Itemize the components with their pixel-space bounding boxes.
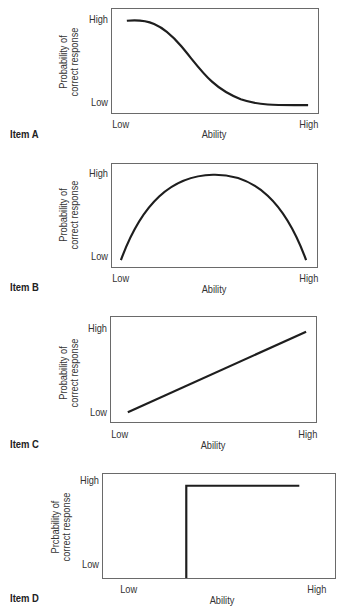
y-tick-low: Low <box>87 250 108 262</box>
y-tick-high: High <box>87 167 108 179</box>
x-tick-low: Low <box>111 428 128 440</box>
x-tick-high: High <box>299 272 318 284</box>
curve-inverted-u <box>112 164 317 267</box>
chart-item-d: Prcbability of correct response High Low… <box>0 455 345 613</box>
y-tick-high: High <box>78 474 99 486</box>
step-function <box>103 474 335 578</box>
x-axis-label: Ability <box>202 128 227 140</box>
item-label: Item B <box>10 281 39 293</box>
x-tick-high: High <box>299 118 318 130</box>
x-tick-low: Low <box>112 272 129 284</box>
y-tick-low: Low <box>86 406 107 418</box>
y-axis-label: Probability of correct response <box>58 22 82 101</box>
plot-area <box>111 163 318 268</box>
chart-item-b: Probability of correct response High Low… <box>0 150 345 305</box>
x-tick-low: Low <box>120 583 137 595</box>
x-tick-high: High <box>307 583 326 595</box>
plot-area <box>102 473 336 579</box>
x-axis-label: Ability <box>201 439 226 451</box>
y-tick-low: Low <box>78 558 99 570</box>
x-axis-label: Ability <box>202 283 227 295</box>
plot-area <box>110 316 317 423</box>
plot-area <box>111 8 319 114</box>
y-axis-label: Probability of correct response <box>58 333 82 412</box>
line-increasing <box>111 317 316 422</box>
y-tick-high: High <box>86 322 107 334</box>
item-label: Item D <box>10 592 39 604</box>
y-tick-low: Low <box>87 96 108 108</box>
x-axis-label: Ability <box>210 594 235 606</box>
y-axis-label: Prcbability of correct response <box>50 487 74 566</box>
item-label: Item A <box>10 128 39 140</box>
x-tick-low: Low <box>112 118 129 130</box>
chart-item-c: Probability of correct response High Low… <box>0 305 345 455</box>
curve-decreasing <box>112 9 318 113</box>
y-axis-label: Probability of correct response <box>58 175 82 254</box>
item-label: Item C <box>10 438 39 450</box>
x-tick-high: High <box>298 428 317 440</box>
chart-item-a: Probability of correct response High Low… <box>0 0 345 150</box>
y-tick-high: High <box>87 13 108 25</box>
